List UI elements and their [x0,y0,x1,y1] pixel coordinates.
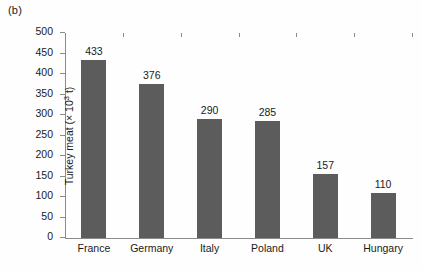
x-tick [412,33,413,37]
x-axis-label-uk: UK [318,242,333,254]
x-axis-label-germany: Germany [130,242,173,254]
y-tick-label: 500 [35,25,53,37]
y-axis-title-prefix: Turkey meat (× 10 [63,100,75,185]
bar-hungary[interactable]: 110 [371,193,396,238]
x-tick [296,33,297,37]
y-tick-label: 50 [41,210,53,222]
y-tick: 250 [60,135,65,136]
x-axis-label-poland: Poland [251,242,284,254]
y-tick: 450 [60,53,65,54]
panel-label: (b) [8,4,22,16]
bar-italy[interactable]: 290 [197,119,222,238]
plot-area: Turkey meat (× 103 t) 050100150200250300… [65,33,412,238]
x-tick [65,33,66,37]
y-tick: 100 [60,196,65,197]
bar-poland[interactable]: 285 [255,121,280,238]
bar-value-label: 110 [375,178,392,190]
x-tick [181,33,182,37]
x-tick [239,33,240,37]
bar-france[interactable]: 433 [81,60,106,238]
bar-value-label: 285 [259,106,277,118]
y-axis-title: Turkey meat (× 103 t) [62,86,76,185]
bar-value-label: 157 [316,159,334,171]
y-tick: 200 [60,155,65,156]
y-tick: 350 [60,94,65,95]
y-tick-label: 350 [35,87,53,99]
y-tick-label: 450 [35,46,53,58]
bar-value-label: 290 [201,104,219,116]
bar-uk[interactable]: 157 [313,174,338,238]
x-tick [354,33,355,37]
y-tick-label: 300 [35,107,53,119]
x-tick [123,33,124,37]
y-tick-label: 0 [47,230,53,242]
x-axis-label-hungary: Hungary [363,242,403,254]
chart-figure: (b) Turkey meat (× 103 t) 05010015020025… [0,0,422,270]
bar-germany[interactable]: 376 [139,84,164,238]
y-tick: 300 [60,114,65,115]
bar-value-label: 433 [85,45,103,57]
y-tick-label: 200 [35,148,53,160]
x-axis-line [65,238,413,239]
x-axis-label-france: France [78,242,111,254]
y-tick: 50 [60,217,65,218]
y-tick: 0 [60,237,65,238]
y-tick-label: 100 [35,189,53,201]
bar-value-label: 376 [143,69,161,81]
y-tick-label: 400 [35,66,53,78]
y-tick-label: 150 [35,169,53,181]
x-axis-label-italy: Italy [200,242,219,254]
y-tick: 150 [60,176,65,177]
y-tick: 400 [60,73,65,74]
y-tick-label: 250 [35,128,53,140]
